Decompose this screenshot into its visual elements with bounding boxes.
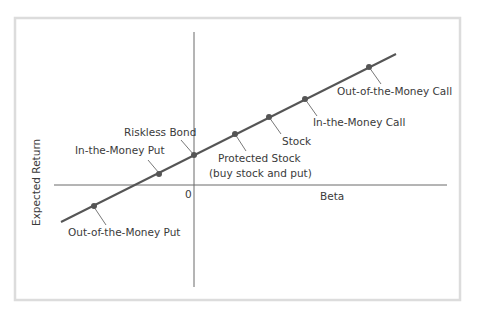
label-stock: Stock xyxy=(282,135,312,147)
chart: Out-of-the-Money Put In-the-Money Put Ri… xyxy=(0,0,477,318)
x-axis-label: Beta xyxy=(320,190,344,202)
label-protected-stock-note: (buy stock and put) xyxy=(209,167,312,179)
label-itm-put: In-the-Money Put xyxy=(75,144,165,156)
point-itm-call xyxy=(302,96,308,102)
point-riskless-bond xyxy=(191,152,197,158)
label-otm-call: Out-of-the-Money Call xyxy=(337,85,452,97)
label-otm-put: Out-of-the-Money Put xyxy=(68,226,180,238)
point-otm-call xyxy=(366,64,372,70)
point-protected-stock xyxy=(232,131,238,137)
point-otm-put xyxy=(91,203,97,209)
point-itm-put xyxy=(156,171,162,177)
point-stock xyxy=(266,114,272,120)
origin-label: 0 xyxy=(185,188,192,200)
label-itm-call: In-the-Money Call xyxy=(313,116,405,128)
label-protected-stock: Protected Stock xyxy=(218,152,302,164)
label-riskless-bond: Riskless Bond xyxy=(124,126,196,138)
y-axis-label: Expected Return xyxy=(30,139,42,226)
